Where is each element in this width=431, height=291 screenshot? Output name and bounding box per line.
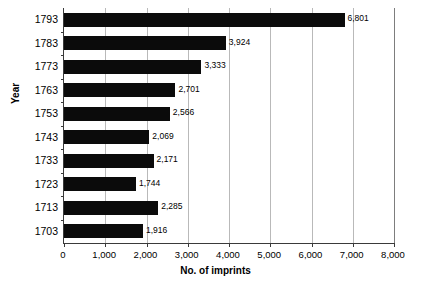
bar-chart: Year 17931783177317631753174317331723171… [0,0,431,291]
bar[interactable] [64,177,136,191]
x-axis-tick-label: 7,000 [340,249,364,260]
y-axis-tick-label: 1753 [0,102,58,126]
bar-band: 2,069 [64,126,394,150]
bar-band: 2,171 [64,149,394,173]
x-axis-tick-label: 2,000 [134,249,158,260]
bar-band: 3,924 [64,32,394,56]
y-axis-tick-label: 1733 [0,149,58,173]
y-axis-tick-label: 1763 [0,79,58,103]
x-axis-tick-labels: 01,0002,0003,0004,0005,0006,0007,0008,00… [0,249,431,263]
bar-band: 2,566 [64,102,394,126]
bar-value-label: 1,744 [139,176,160,190]
bar[interactable] [64,201,158,215]
x-axis-tick [312,243,313,247]
x-axis-tick [353,243,354,247]
bar-value-label: 6,801 [348,11,369,25]
y-axis-tick [61,32,65,33]
x-axis-tick-label: 5,000 [257,249,281,260]
bar-band: 2,285 [64,196,394,220]
bar[interactable] [64,83,175,97]
bar-value-label: 1,916 [146,223,167,237]
bar[interactable] [64,36,226,50]
gridline [394,8,395,243]
bar-value-label: 2,285 [161,199,182,213]
bar[interactable] [64,60,201,74]
bar-band: 1,744 [64,173,394,197]
y-axis-tick [61,126,65,127]
bar[interactable] [64,224,143,238]
y-axis-tick-label: 1723 [0,173,58,197]
y-axis-tick-label: 1783 [0,32,58,56]
x-axis-title: No. of imprints [0,265,431,276]
bar-value-label: 2,069 [152,129,173,143]
x-axis-tick [64,243,65,247]
bar-value-label: 2,701 [178,82,199,96]
y-axis-tick [61,102,65,103]
bar[interactable] [64,154,154,168]
bar-band: 2,701 [64,79,394,103]
bar[interactable] [64,13,345,27]
plot-area: 6,8013,9243,3332,7012,5662,0692,1711,744… [63,8,394,244]
y-axis-title: Year [10,83,21,104]
x-axis-tick [394,243,395,247]
bar-value-label: 2,171 [157,152,178,166]
x-axis-tick-label: 0 [60,249,65,260]
bar[interactable] [64,107,170,121]
bar[interactable] [64,130,149,144]
x-axis-tick [105,243,106,247]
x-axis-tick [270,243,271,247]
y-axis-tick [61,220,65,221]
x-axis-tick [229,243,230,247]
bar-band: 3,333 [64,55,394,79]
bar-value-label: 2,566 [173,105,194,119]
bar-value-label: 3,333 [204,58,225,72]
x-axis-tick-label: 8,000 [381,249,405,260]
y-axis-tick [61,173,65,174]
bar-band: 1,916 [64,220,394,244]
bar-value-label: 3,924 [229,35,250,49]
y-axis-tick [61,79,65,80]
y-axis-tick [61,196,65,197]
bar-band: 6,801 [64,8,394,32]
x-axis-tick-label: 1,000 [92,249,116,260]
x-axis-tick [188,243,189,247]
x-axis-tick-label: 6,000 [299,249,323,260]
y-axis-tick-label: 1703 [0,220,58,244]
y-axis-tick [61,55,65,56]
x-axis-tick [147,243,148,247]
y-axis-tick-label: 1773 [0,55,58,79]
y-axis-tick-label: 1793 [0,8,58,32]
x-axis-tick-label: 4,000 [216,249,240,260]
y-axis-tick [61,149,65,150]
x-axis-tick-label: 3,000 [175,249,199,260]
y-axis-tick-label: 1713 [0,196,58,220]
y-axis-tick-label: 1743 [0,126,58,150]
